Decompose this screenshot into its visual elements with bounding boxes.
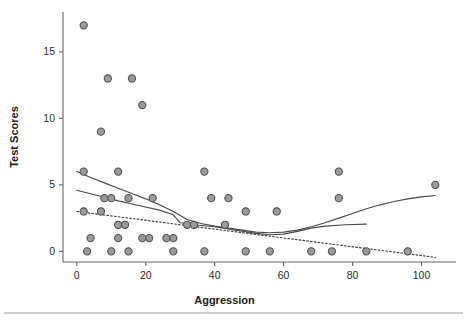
data-point <box>190 221 197 228</box>
data-point <box>115 168 122 175</box>
x-tick-label: 40 <box>209 269 221 281</box>
data-point <box>128 75 135 82</box>
x-tick-label: 100 <box>413 269 431 281</box>
x-axis-title: Aggression <box>194 294 255 306</box>
data-point <box>221 221 228 228</box>
data-point <box>432 181 439 188</box>
data-point <box>184 221 191 228</box>
data-point <box>121 221 128 228</box>
data-point <box>201 168 208 175</box>
trend-line-loess-curve <box>77 172 436 233</box>
y-tick-label: 15 <box>43 45 55 57</box>
data-point <box>163 234 170 241</box>
data-point <box>125 195 132 202</box>
data-point <box>208 195 215 202</box>
data-point <box>170 248 177 255</box>
data-point <box>97 128 104 135</box>
data-point <box>149 195 156 202</box>
data-point <box>273 208 280 215</box>
data-point <box>139 234 146 241</box>
data-point <box>108 195 115 202</box>
data-point <box>225 195 232 202</box>
data-point <box>80 208 87 215</box>
data-point <box>242 208 249 215</box>
data-point <box>80 168 87 175</box>
x-tick-label: 80 <box>347 269 359 281</box>
data-point <box>101 195 108 202</box>
data-point <box>146 234 153 241</box>
data-point <box>84 248 91 255</box>
data-point <box>104 75 111 82</box>
data-point <box>139 101 146 108</box>
data-point <box>115 234 122 241</box>
scatter-plot-figure: 051015020406080100AggressionTest Scores <box>0 0 467 324</box>
data-point <box>404 248 411 255</box>
data-point <box>363 248 370 255</box>
data-point <box>201 248 208 255</box>
axis-labels-layer: 051015020406080100AggressionTest Scores <box>8 45 430 306</box>
data-points-layer <box>80 22 439 255</box>
x-tick-label: 0 <box>74 269 80 281</box>
data-point <box>242 248 249 255</box>
y-tick-label: 5 <box>49 178 55 190</box>
trend-lines-layer <box>77 172 436 258</box>
data-point <box>328 248 335 255</box>
data-point <box>87 234 94 241</box>
y-axis-title: Test Scores <box>8 106 20 168</box>
data-point <box>170 234 177 241</box>
data-point <box>308 248 315 255</box>
data-point <box>108 248 115 255</box>
y-tick-label: 0 <box>49 245 55 257</box>
x-tick-label: 60 <box>278 269 290 281</box>
data-point <box>335 168 342 175</box>
data-point <box>80 22 87 29</box>
data-point <box>335 195 342 202</box>
data-point <box>115 221 122 228</box>
data-point <box>125 248 132 255</box>
x-tick-label: 20 <box>140 269 152 281</box>
data-point <box>97 208 104 215</box>
y-tick-label: 10 <box>43 112 55 124</box>
data-point <box>266 248 273 255</box>
